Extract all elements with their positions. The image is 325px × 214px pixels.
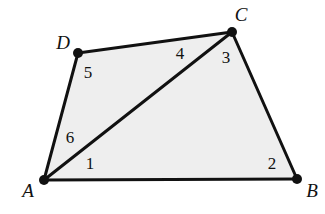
angle-label-4: 4 [176,45,185,62]
angle-label-6: 6 [66,129,75,146]
vertex-label-a: A [22,181,34,200]
angle-label-2: 2 [268,155,277,172]
geometry-figure: A B C D 1 2 3 4 5 6 [0,0,325,214]
diagram-canvas [0,0,325,214]
angle-label-3: 3 [222,49,231,66]
angle-label-5: 5 [84,64,93,81]
vertex-dot-a [39,175,49,185]
edge-a-b [44,179,297,180]
vertex-dot-c [227,27,237,37]
angle-label-1: 1 [86,155,95,172]
vertex-label-b: B [306,181,318,200]
vertex-label-d: D [56,33,70,52]
vertex-label-c: C [235,5,248,24]
vertex-dot-b [292,174,302,184]
vertex-dot-d [73,48,83,58]
